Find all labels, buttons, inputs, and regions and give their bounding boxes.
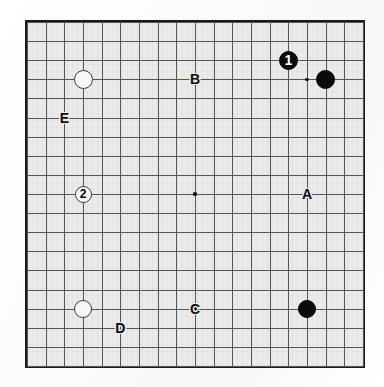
grid-line-horizontal xyxy=(27,366,363,367)
board-label-layer: ABCDE xyxy=(27,22,363,366)
label-B: B xyxy=(190,72,200,86)
label-E: E xyxy=(60,111,69,125)
go-board[interactable]: 12 ABCDE xyxy=(25,20,365,368)
go-diagram-page: 12 ABCDE xyxy=(0,0,384,387)
grid-line-vertical xyxy=(363,22,364,366)
label-C: C xyxy=(190,302,200,316)
label-A: A xyxy=(302,187,312,201)
label-D: D xyxy=(115,321,125,335)
